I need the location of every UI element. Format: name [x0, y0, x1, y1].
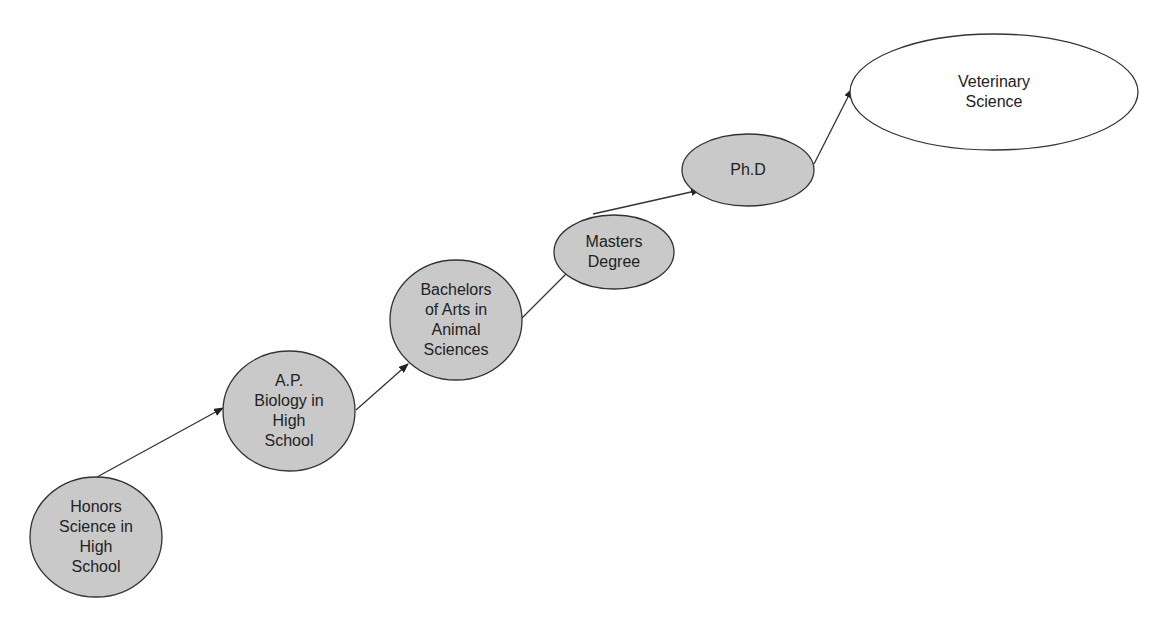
node-label-honors: Honors Science in High School [30, 477, 162, 597]
node-label-ap: A.P. Biology in High School [223, 351, 355, 471]
arrow-honors-to-ap [97, 408, 223, 477]
node-label-bachelors: Bachelors of Arts in Animal Sciences [390, 260, 522, 380]
node-label-vet: Veterinary Science [850, 34, 1138, 150]
arrow-phd-to-vet [814, 89, 852, 164]
node-label-masters: Masters Degree [554, 215, 674, 289]
node-label-phd: Ph.D [682, 134, 814, 206]
